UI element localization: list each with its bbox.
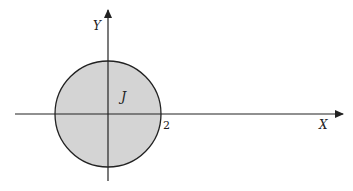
radius-tick-label: 2 [163,119,170,132]
x-axis-label: X [318,118,328,132]
y-axis-label: Y [93,19,102,33]
coordinate-diagram: Y X J 2 [0,0,353,191]
